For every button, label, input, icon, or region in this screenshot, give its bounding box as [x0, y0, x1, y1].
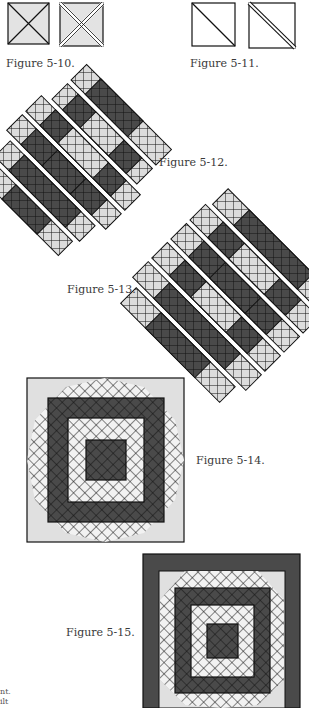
text-fragment: nt.: [0, 687, 11, 696]
figure-label-5-15: Figure 5-15.: [66, 626, 135, 639]
figure-label-5-12: Figure 5-12.: [159, 156, 228, 169]
figure-label-5-10: Figure 5-10.: [6, 57, 75, 70]
figure-5-14-quilt: [27, 378, 184, 542]
page-illustrations: [0, 0, 309, 708]
figure-label-5-13: Figure 5-13.: [67, 283, 136, 296]
figure-5-15-quilt: [143, 554, 300, 708]
text-fragment: ilt: [0, 697, 8, 706]
figure-5-11-block-b: [249, 3, 295, 48]
figure-5-12-quilt: [0, 57, 179, 266]
figure-label-5-11: Figure 5-11.: [190, 57, 259, 70]
figure-label-5-14: Figure 5-14.: [196, 454, 265, 467]
figure-5-11-block-a: [192, 3, 235, 46]
figure-5-10-block-b: [59, 2, 104, 47]
figure-5-13-quilt: [114, 185, 309, 409]
figure-5-10-block-a: [8, 3, 49, 44]
